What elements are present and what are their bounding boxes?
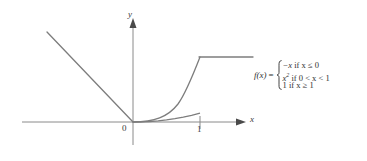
formula-case-row: x2 if 0 < x < 1 (283, 70, 330, 80)
case-1-condition: if x ≤ 0 (294, 60, 319, 70)
piecewise-function-figure: y x 0 1 f(x) = −x if x ≤ 0 x2 if 0 < x <… (0, 0, 367, 161)
y-axis-arrowhead (130, 18, 137, 28)
case-2-expression-exponent: 2 (286, 72, 289, 78)
case-3-condition: if x ≥ 1 (289, 80, 314, 90)
formula-cases: −x if x ≤ 0 x2 if 0 < x < 1 1 if x ≥ 1 (282, 60, 330, 90)
formula-case-row: 1 if x ≥ 1 (283, 80, 330, 90)
y-axis-label: y (128, 10, 132, 19)
curve-branch-x-squared (133, 57, 200, 122)
x-axis-label: x (250, 115, 254, 124)
case-3-expression: 1 (283, 80, 287, 90)
case-1-expression: −x (283, 60, 293, 70)
curve-branch-negative-x (47, 32, 133, 122)
piecewise-formula: f(x) = −x if x ≤ 0 x2 if 0 < x < 1 1 if … (254, 60, 330, 90)
left-curly-brace-icon (276, 60, 282, 90)
x-tick-label-1: 1 (197, 125, 202, 134)
origin-label: 0 (122, 124, 127, 133)
formula-equals-sign: = (269, 70, 276, 80)
formula-case-row: −x if x ≤ 0 (283, 60, 330, 70)
x-axis-arrowhead (236, 119, 246, 126)
formula-lhs: f(x) (254, 70, 269, 80)
